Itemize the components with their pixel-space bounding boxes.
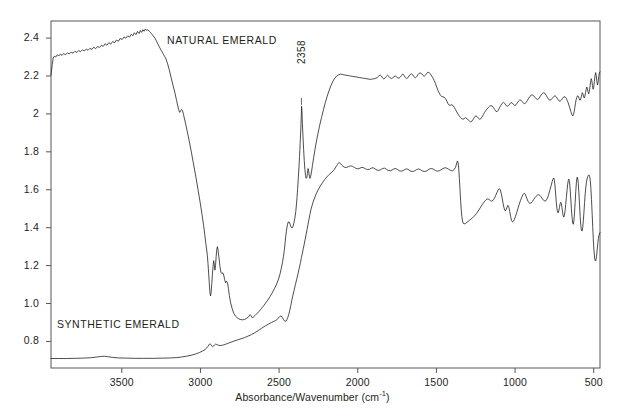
co2-peak-label: 2358: [296, 40, 307, 64]
spectrum-plot-canvas: [0, 0, 625, 418]
synthetic-series-label: SYNTHETIC EMERALD: [57, 318, 180, 330]
x-tick-label: 1500: [406, 376, 466, 388]
x-tick-label: 3000: [170, 376, 230, 388]
x-axis-title-text: Absorbance/Wavenumber (cm: [235, 391, 379, 403]
y-tick-label: 0.8: [5, 334, 39, 346]
x-tick-label: 500: [564, 376, 624, 388]
y-tick-label: 1.6: [5, 183, 39, 195]
x-tick-label: 3500: [92, 376, 152, 388]
y-tick-label: 1.0: [5, 297, 39, 309]
x-tick-label: 1000: [485, 376, 545, 388]
x-axis-title: Absorbance/Wavenumber (cm-1): [0, 389, 625, 403]
plot-frame: [51, 21, 600, 368]
y-tick-label: 2.2: [5, 69, 39, 81]
y-tick-label: 1.4: [5, 221, 39, 233]
y-tick-label: 2.4: [5, 31, 39, 43]
x-tick-label: 2500: [249, 376, 309, 388]
x-axis-title-close: ): [386, 391, 390, 403]
y-tick-label: 1.8: [5, 145, 39, 157]
natural-series-label: NATURAL EMERALD: [167, 34, 277, 46]
y-tick-label: 1.2: [5, 259, 39, 271]
ftir-spectrum-figure: 2.42.221.81.61.41.21.00.8 35003000250020…: [0, 0, 625, 418]
x-tick-label: 2000: [328, 376, 388, 388]
y-tick-label: 2: [5, 107, 39, 119]
